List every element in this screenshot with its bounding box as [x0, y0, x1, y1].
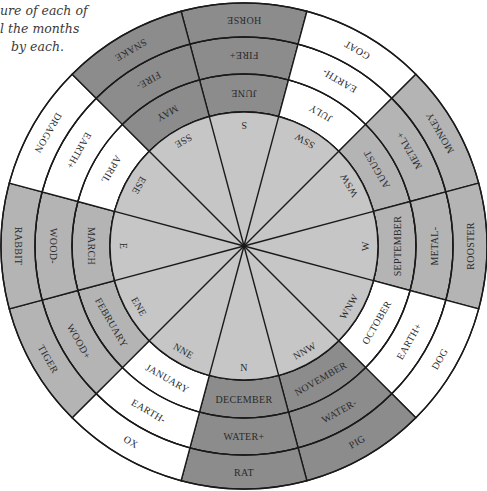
month-label: SEPTEMBER — [392, 216, 403, 277]
month-label: MARCH — [86, 227, 97, 265]
animal-label: ROOSTER — [465, 222, 476, 270]
animal-label: HORSE — [227, 15, 261, 26]
month-label: JUNE — [231, 88, 257, 99]
element-label: FIRE+ — [230, 50, 259, 61]
element-label: METAL- — [429, 227, 440, 266]
element-label: WOOD- — [48, 228, 59, 264]
direction-label: W — [360, 241, 371, 251]
direction-label: S — [241, 120, 247, 131]
month-label: DECEMBER — [216, 394, 273, 405]
direction-label: E — [118, 243, 129, 249]
animal-label: RAT — [234, 467, 254, 478]
direction-label: N — [240, 362, 248, 373]
compass-inner-circle — [110, 112, 378, 380]
zodiac-wheel-diagram: SJUNEFIRE+HORSESSWJULYEARTH-GOATWSWAUGUS… — [0, 0, 487, 491]
animal-label: RABBIT — [13, 227, 24, 265]
element-label: WATER+ — [224, 431, 265, 442]
